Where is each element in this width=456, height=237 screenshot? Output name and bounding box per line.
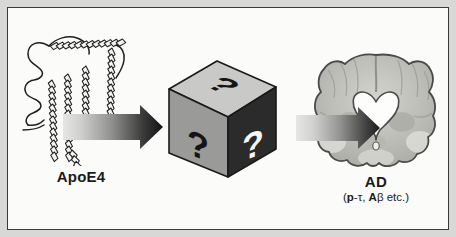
figure-canvas: ApoE4 ? ?	[8, 8, 448, 229]
arrow-layer	[8, 8, 448, 229]
figure-root: ApoE4 ? ?	[0, 0, 456, 237]
arrow-apoe4-to-blackbox	[63, 105, 163, 149]
arrow-blackbox-to-brain	[296, 107, 380, 149]
figure-frame: ApoE4 ? ?	[7, 7, 449, 230]
